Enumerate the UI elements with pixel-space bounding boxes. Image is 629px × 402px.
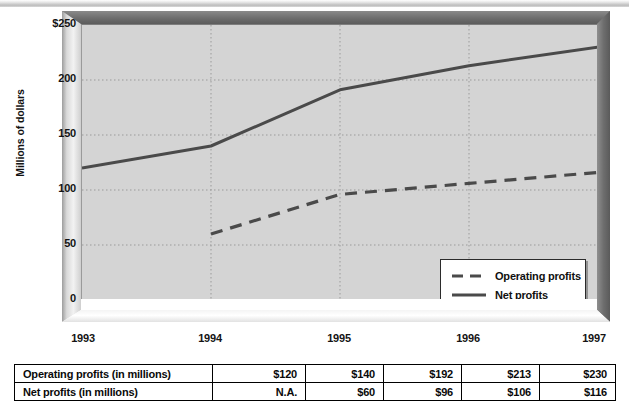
table-cell-operating-1995: $192 [384,365,462,383]
table-cell-net-1996: $106 [462,383,540,401]
table-row-label-operating-profits: Operating profits (in millions) [15,365,213,383]
y-tick-0: 0 [20,292,76,304]
x-tick-1997: 1997 [559,332,629,344]
data-table: Operating profits (in millions) $120 $14… [14,364,616,401]
y-tick-250: $250 [20,17,76,29]
table-cell-operating-1996: $213 [462,365,540,383]
table-cell-operating-1993: $120 [213,365,306,383]
frame-bevel-bottom [62,310,610,322]
frame-bevel-right [597,11,610,322]
table-cell-net-1995: $96 [384,383,462,401]
legend-swatch-dashed-icon [451,271,487,281]
y-tick-200: 200 [20,72,76,84]
x-tick-1995: 1995 [304,332,374,344]
vertical-gridlines [211,25,469,299]
legend-item-net-profits: Net profits [451,285,585,299]
table-cell-net-1993: N.A. [213,383,306,401]
y-axis-tick-labels: $250 200 150 100 50 0 [14,24,76,299]
y-tick-150: 150 [20,127,76,139]
chart-legend: Operating profits Net profits [440,259,586,299]
table-cell-operating-1997: $230 [540,365,616,383]
legend-swatch-solid-icon [451,290,487,300]
plot-area: Operating profits Net profits [81,24,597,299]
table-row-label-net-profits: Net profits (in millions) [15,383,213,401]
y-tick-100: 100 [20,182,76,194]
x-tick-1994: 1994 [175,332,245,344]
legend-item-operating-profits: Operating profits [451,266,585,285]
series-line-operating-profits [211,172,597,234]
x-tick-1996: 1996 [433,332,503,344]
x-tick-1993: 1993 [48,332,118,344]
table-row: Net profits (in millions) N.A. $60 $96 $… [15,383,616,401]
table-row: Operating profits (in millions) $120 $14… [15,365,616,383]
table-cell-net-1994: $60 [306,383,384,401]
table-cell-net-1997: $116 [540,383,616,401]
plot-svg [82,25,597,299]
y-tick-50: 50 [20,237,76,249]
frame-bevel-top-shade [62,11,610,24]
table-cell-operating-1994: $140 [306,365,384,383]
chart-figure: Millions of dollars $250 200 150 100 50 … [0,0,629,358]
x-axis-tick-labels: 1993 1994 1995 1996 1997 [81,332,597,350]
legend-label-operating-profits: Operating profits [495,270,581,282]
legend-label-net-profits: Net profits [495,289,548,300]
